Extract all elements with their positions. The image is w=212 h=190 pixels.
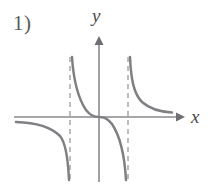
figure-container: 1) y x [0,0,212,190]
curve-left-branch [16,122,69,180]
graph-plot [0,0,212,190]
y-axis-arrowhead [95,36,104,45]
x-axis-arrowhead [176,113,185,122]
y-axis-label: y [92,6,100,25]
curve-right-branch [130,57,172,113]
x-axis-label: x [191,107,199,126]
